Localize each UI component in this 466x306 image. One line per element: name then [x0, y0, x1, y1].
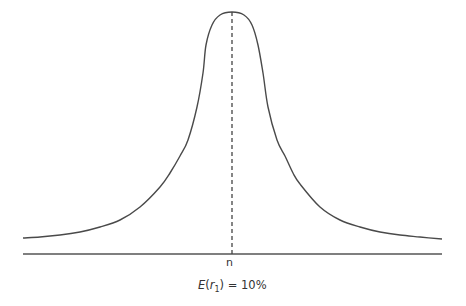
expected-return-caption: E(r1) = 10% [198, 278, 267, 294]
axis-label-n: n [226, 256, 233, 269]
distribution-diagram [0, 0, 466, 306]
caption-value: = 10% [224, 278, 267, 292]
